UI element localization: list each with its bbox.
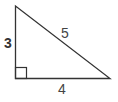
side-label-hypotenuse: 5 bbox=[61, 25, 69, 41]
side-label-vertical: 3 bbox=[4, 35, 12, 51]
triangle-diagram: 3 5 4 bbox=[0, 0, 118, 102]
right-angle-marker bbox=[16, 68, 27, 79]
side-label-horizontal: 4 bbox=[58, 81, 66, 97]
right-triangle bbox=[16, 6, 111, 79]
